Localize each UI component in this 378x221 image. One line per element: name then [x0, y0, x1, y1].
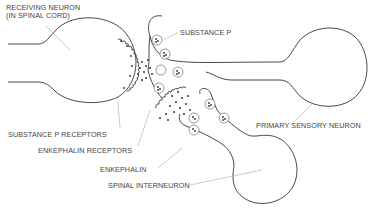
molecules	[120, 38, 226, 132]
synapse-diagram: RECEIVING NEURON (IN SPINAL CORD) SUBSTA…	[0, 0, 378, 221]
label-primary-sensory-neuron: PRIMARY SENSORY NEURON	[256, 122, 361, 130]
label-spinal-interneuron: SPINAL INTERNEURON	[108, 182, 190, 190]
leader-lines	[46, 26, 312, 185]
label-substance-p-receptors: SUBSTANCE P RECEPTORS	[8, 131, 107, 139]
receiving-neuron-body	[8, 18, 136, 103]
label-enkephalin: ENKEPHALIN	[100, 166, 147, 174]
label-receiving-neuron-location: (IN SPINAL CORD)	[6, 12, 70, 20]
spinal-interneuron	[179, 88, 297, 203]
label-substance-p: SUBSTANCE P	[180, 29, 231, 37]
vesicles	[152, 35, 229, 135]
label-enkephalin-receptors: ENKEPHALIN RECEPTORS	[38, 147, 132, 155]
